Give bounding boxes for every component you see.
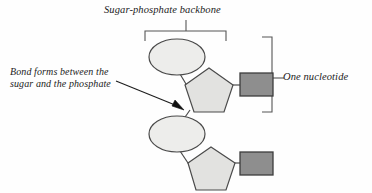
bond-pointer-arrow: [116, 81, 184, 110]
sugar-pentagon: [185, 68, 233, 112]
nucleotide-label: One nucleotide: [283, 71, 348, 83]
nucleotide-top: [149, 39, 273, 112]
bond-annotation-line-1: Bond forms between the: [10, 66, 109, 77]
phosphate-ellipse: [149, 39, 205, 75]
backbone-label: Sugar-phosphate backbone: [104, 4, 221, 16]
nucleotide-bottom: [149, 116, 273, 190]
bond-annotation-label: Bond forms between thesugar and the phos…: [10, 66, 111, 90]
bond-annotation-line-2: sugar and the phosphate: [10, 78, 111, 90]
phosphate-ellipse: [149, 116, 205, 152]
nitrogenous-base-rectangle: [240, 152, 273, 175]
diagram-canvas: Sugar-phosphate backbone Bond forms betw…: [0, 0, 372, 193]
backbone-bracket: [145, 20, 226, 41]
dna-nucleotide-diagram: [0, 0, 372, 193]
sugar-pentagon: [188, 147, 235, 190]
nitrogenous-base-rectangle: [240, 73, 273, 96]
